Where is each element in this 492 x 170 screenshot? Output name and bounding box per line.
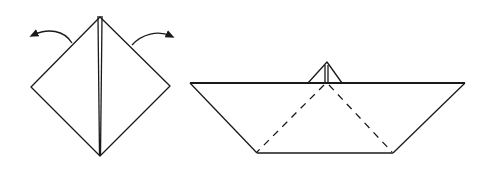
- right-fold-arrow-icon: [132, 33, 171, 45]
- diagram-svg: [0, 0, 492, 170]
- hidden-fold-left: [257, 85, 324, 152]
- center-fold-right: [101, 18, 103, 155]
- boat-left-side: [190, 83, 257, 153]
- hidden-fold-right: [329, 85, 392, 152]
- step2-boat: [190, 62, 465, 153]
- boat-right-side: [393, 83, 465, 153]
- center-fold-left: [98, 18, 100, 155]
- left-fold-arrow-icon: [33, 31, 72, 43]
- origami-diagram: [0, 0, 492, 170]
- step1-diamond: [31, 17, 170, 156]
